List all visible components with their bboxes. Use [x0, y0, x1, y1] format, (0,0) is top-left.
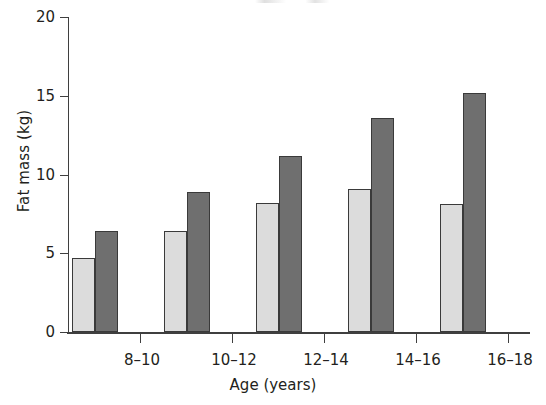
- bar-dark-series-12-14: [279, 156, 302, 332]
- y-tick-label: 20: [36, 10, 55, 25]
- plot-area: 05101520 8–1010–1212–1414–1616–18: [68, 17, 530, 332]
- y-tick-mark: [60, 17, 68, 18]
- y-tick-label: 5: [45, 246, 55, 261]
- y-tick-mark: [60, 332, 68, 333]
- y-tick-mark: [60, 96, 68, 97]
- x-axis-line: [67, 332, 530, 334]
- x-tick-mark: [140, 334, 141, 343]
- bar-dark-series-16-18: [463, 93, 486, 332]
- y-tick-label: 10: [36, 167, 55, 182]
- x-tick-mark: [416, 334, 417, 343]
- x-tick-label-10-12: 10–12: [211, 351, 257, 369]
- y-axis-line: [68, 17, 69, 332]
- bar-light-series-10-12: [164, 231, 187, 332]
- x-axis-title: Age (years): [0, 376, 546, 394]
- bar-light-series-12-14: [256, 203, 279, 332]
- y-tick-mark: [60, 253, 68, 254]
- bar-light-series-14-16: [348, 189, 371, 332]
- x-tick-label-8-10: 8–10: [124, 351, 160, 369]
- bar-dark-series-8-10: [95, 231, 118, 332]
- y-tick-label: 15: [36, 88, 55, 103]
- x-tick-label-14-16: 14–16: [395, 351, 441, 369]
- x-tick-mark: [508, 334, 509, 343]
- bar-dark-series-14-16: [371, 118, 394, 332]
- x-tick-mark: [324, 334, 325, 343]
- y-axis-title: Fat mass (kg): [15, 71, 33, 251]
- x-tick-label-12-14: 12–14: [303, 351, 349, 369]
- cropped-header-remnant: [255, 0, 375, 3]
- bar-light-series-8-10: [72, 258, 95, 332]
- y-tick-mark: [60, 175, 68, 176]
- y-tick-label: 0: [45, 325, 55, 340]
- bar-chart-figure: Fat mass (kg) 05101520 8–1010–1212–1414–…: [0, 0, 546, 405]
- bar-dark-series-10-12: [187, 192, 210, 332]
- x-tick-label-16-18: 16–18: [487, 351, 533, 369]
- bar-light-series-16-18: [440, 204, 463, 332]
- x-tick-mark: [232, 334, 233, 343]
